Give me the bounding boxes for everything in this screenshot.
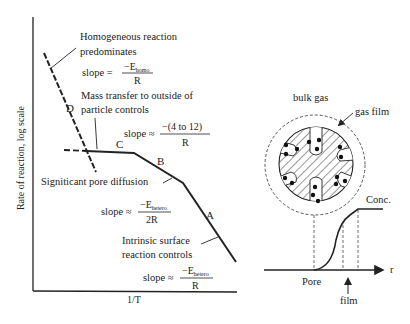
svg-text:R: R <box>182 137 189 148</box>
svg-text:−Ehomo: −Ehomo <box>124 61 149 73</box>
mass-text-2: particle controls <box>81 104 149 115</box>
y-axis-label: Rate of reaction, log scale <box>15 105 26 210</box>
mass-text-1: Mass transfer to outside of <box>81 90 193 101</box>
svg-text:2R: 2R <box>146 214 158 225</box>
pore-slope: slope ≈ −Ehetero 2R <box>101 199 171 225</box>
region-a-label: A <box>206 209 214 221</box>
r-axis-label: r <box>390 264 394 275</box>
mass-leader <box>95 118 97 149</box>
diagram-canvas: Rate of reaction, log scale 1/T D C B A … <box>0 0 410 324</box>
pore-leader <box>163 178 172 183</box>
concentration-profile <box>314 209 383 270</box>
pore-text: Signiticant pore diffusion <box>41 176 149 187</box>
svg-text:R: R <box>134 75 141 86</box>
conc-label: Conc. <box>366 194 391 205</box>
svg-text:slope ≈: slope ≈ <box>143 272 174 283</box>
x-axis <box>33 291 237 292</box>
svg-text:−(4 to 12): −(4 to 12) <box>162 121 202 133</box>
intrinsic-leader <box>201 237 218 244</box>
gas-film-label: gas film <box>355 106 389 117</box>
svg-text:slope =: slope = <box>82 67 113 78</box>
gas-film-arrow <box>339 113 353 125</box>
mass-slope: slope ≈ −(4 to 12) R <box>124 121 210 148</box>
homo-text-1: Homogeneous reaction <box>80 31 178 42</box>
svg-text:R: R <box>192 280 199 291</box>
homo-leader <box>50 48 76 69</box>
region-b-label: B <box>157 155 164 167</box>
x-axis-label: 1/T <box>127 294 141 305</box>
line-c-dashed-extension <box>64 150 88 151</box>
bulk-gas-label: bulk gas <box>293 92 328 103</box>
homo-slope: slope = −Ehomo R <box>82 61 153 86</box>
svg-text:−Ehetero: −Ehetero <box>182 265 209 277</box>
arrhenius-chart: Rate of reaction, log scale 1/T D C B A … <box>15 17 237 305</box>
svg-text:−Ehetero: −Ehetero <box>140 199 167 211</box>
intrinsic-text-2: reaction controls <box>122 249 192 260</box>
homo-text-2: predominates <box>80 46 137 57</box>
svg-text:slope ≈: slope ≈ <box>124 128 155 139</box>
region-d-label: D <box>66 102 74 114</box>
catalyst-pellet <box>276 120 356 208</box>
svg-text:slope ≈: slope ≈ <box>101 206 132 217</box>
pellet-diagram: bulk gas gas film <box>264 92 394 306</box>
pore-label: Pore <box>302 276 322 287</box>
intrinsic-text-1: Intrinsic surface <box>122 235 190 246</box>
region-c-label: C <box>116 138 123 150</box>
film-label: film <box>340 295 358 306</box>
intrinsic-slope: slope ≈ −Ehetero R <box>143 265 213 291</box>
